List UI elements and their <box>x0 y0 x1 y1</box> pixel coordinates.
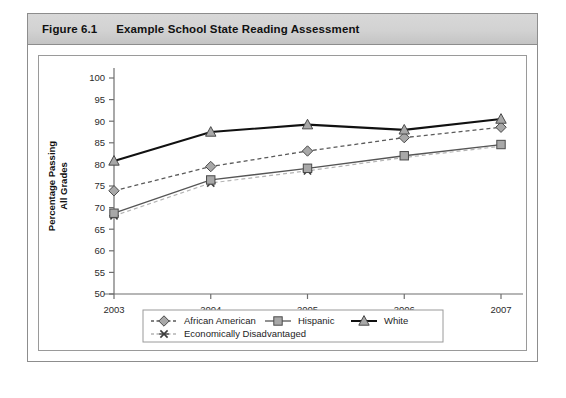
figure-number: Figure 6.1 <box>42 23 97 35</box>
figure-box: Figure 6.1 Example School State Reading … <box>27 13 538 362</box>
x-tick-label: 2007 <box>490 304 511 315</box>
legend-item: Hispanic <box>265 315 335 326</box>
chart-frame: 5055606570758085909510020032004200520062… <box>38 55 527 351</box>
y-tick-label: 95 <box>94 94 105 105</box>
figure-caption-bar: Figure 6.1 Example School State Reading … <box>28 14 537 45</box>
y-tick-label: 60 <box>94 245 105 256</box>
y-tick-label: 75 <box>94 180 105 191</box>
y-axis-title-line: Percentage Passing <box>46 141 57 231</box>
figure-title: Example School State Reading Assessment <box>116 23 359 35</box>
y-axis-title-line: All Grades <box>58 162 69 210</box>
y-tick-label: 80 <box>94 159 105 170</box>
legend-label: Economically Disadvantaged <box>184 328 306 339</box>
legend-label: White <box>384 315 408 326</box>
y-tick-label: 85 <box>94 137 105 148</box>
y-tick-label: 70 <box>94 202 105 213</box>
series-white <box>109 114 506 166</box>
x-tick-label: 2003 <box>103 304 124 315</box>
y-tick-label: 90 <box>94 116 105 127</box>
chart-svg: 5055606570758085909510020032004200520062… <box>39 56 526 350</box>
series-african-american <box>109 122 506 196</box>
y-tick-label: 55 <box>94 267 105 278</box>
legend-label: African American <box>184 315 256 326</box>
series-economically-disadvantaged <box>109 146 501 219</box>
legend-label: Hispanic <box>298 315 335 326</box>
y-tick-label: 100 <box>89 72 105 83</box>
y-tick-label: 50 <box>94 288 105 299</box>
y-tick-label: 65 <box>94 224 105 235</box>
line-chart: 5055606570758085909510020032004200520062… <box>39 56 526 350</box>
